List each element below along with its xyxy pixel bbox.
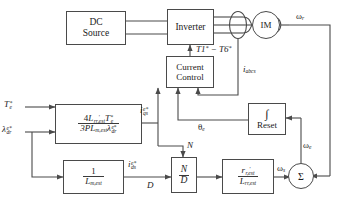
- omega-s-label: ωs: [277, 163, 285, 173]
- slip-gain-numerator: r′r,est: [239, 166, 256, 175]
- divider-numerator: N: [179, 165, 189, 175]
- integrator-reset-block[interactable]: ∫ Reset: [248, 103, 286, 135]
- torque-equation-denominator: 3PLm,estλe*dr: [78, 123, 118, 134]
- torque-to-iqs-block[interactable]: 4L′rr,estT*e 3PLm,estλe*dr: [55, 104, 142, 144]
- torque-ref-label: T*e: [4, 99, 12, 109]
- divider-n-label: N: [187, 140, 193, 150]
- summing-junction[interactable]: Σ: [288, 163, 314, 189]
- sigma-icon: Σ: [298, 171, 304, 182]
- divider-fraction: N D: [179, 165, 190, 186]
- torque-equation: 4L′rr,estT*e 3PLm,estλe*dr: [78, 114, 118, 135]
- wire-phase-a-to-motor: [243, 17, 252, 25]
- slip-gain-fraction: r′r,est Lrr,est: [238, 166, 258, 187]
- theta-e-label: θe: [198, 122, 205, 132]
- i-abcs-label: iabcs: [243, 64, 256, 74]
- dc-source-line1: DC: [89, 17, 102, 28]
- flux-to-ids-block[interactable]: 1 Lm,est: [63, 160, 124, 194]
- integral-icon: ∫: [265, 108, 268, 120]
- wire-phase-c-to-motor: [243, 25, 252, 33]
- dc-source-block[interactable]: DC Source: [66, 11, 126, 45]
- flux-ref-label: λe*dr: [2, 124, 12, 134]
- dc-source-line2: Source: [83, 28, 109, 39]
- omega-e-label: ωe: [303, 140, 311, 150]
- divider-block[interactable]: N D: [171, 157, 197, 193]
- iqs-ref-label: ie*qs: [140, 105, 148, 115]
- inverter-label: Inverter: [175, 22, 205, 33]
- divider-d-label: D: [147, 180, 154, 190]
- slip-gain-denominator: Lrr,est: [238, 176, 258, 187]
- current-control-block[interactable]: Current Control: [166, 56, 214, 88]
- integrator-reset-label: Reset: [257, 120, 277, 130]
- torque-equation-numerator: 4L′rr,estT*e: [82, 114, 116, 123]
- slip-gain-block[interactable]: r′r,est Lrr,est: [222, 159, 274, 194]
- gate-signals-label: T1* − T6*: [196, 44, 232, 54]
- ids-ref-label: ie*ds: [128, 159, 136, 169]
- divider-denominator: D: [179, 175, 190, 186]
- current-control-line2: Control: [176, 72, 204, 82]
- inverter-block[interactable]: Inverter: [167, 9, 214, 45]
- wire-omega-r-rail: [289, 25, 330, 176]
- im-label: IM: [261, 20, 272, 30]
- wire-n-to-divider: [158, 146, 183, 157]
- omega-r-label: ωr: [296, 11, 304, 21]
- flux-equation: 1 Lm,est: [83, 167, 104, 188]
- current-control-line1: Current: [176, 62, 204, 72]
- im-motor-block[interactable]: IM: [252, 11, 280, 39]
- ifoc-block-diagram: DC Source Inverter IM Current Control 4L…: [0, 0, 342, 202]
- flux-equation-numerator: 1: [89, 167, 98, 176]
- flux-equation-denominator: Lm,est: [83, 176, 104, 187]
